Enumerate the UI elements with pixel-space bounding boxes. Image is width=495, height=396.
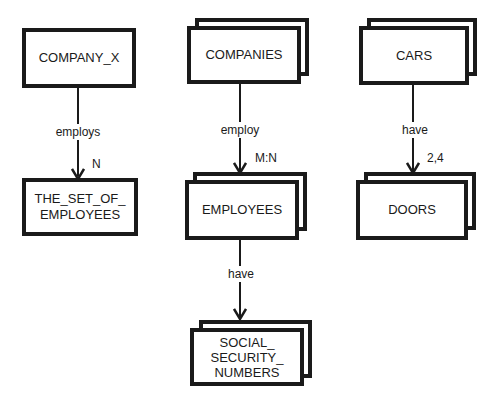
entity-label: THE_SET_OF_ EMPLOYEES (34, 191, 125, 223)
entity-employees: EMPLOYEES (185, 180, 299, 240)
relationship-label-employs: employs (52, 124, 104, 140)
entity-label: SOCIAL_ SECURITY_ NUMBERS (211, 335, 284, 380)
entity-label: CARS (396, 48, 432, 64)
relationship-label-have: have (226, 266, 256, 282)
entity-label: COMPANY_X (39, 50, 120, 66)
cardinality-label: N (92, 157, 101, 171)
relationship-label-employ: employ (220, 122, 260, 138)
relationship-label-have-cars: have (400, 122, 430, 138)
cardinality-label: 2,4 (427, 151, 444, 165)
entity-label: EMPLOYEES (202, 202, 282, 218)
entity-companies: COMPANIES (187, 26, 301, 84)
entity-company-x: COMPANY_X (22, 28, 136, 88)
entity-doors: DOORS (356, 180, 468, 240)
entity-the-set-of-employees: THE_SET_OF_ EMPLOYEES (22, 178, 138, 236)
entity-cars: CARS (359, 26, 469, 85)
entity-social-security-numbers: SOCIAL_ SECURITY_ NUMBERS (190, 328, 304, 386)
cardinality-label: M:N (255, 151, 277, 165)
entity-label: DOORS (388, 202, 436, 218)
entity-label: COMPANIES (205, 47, 282, 63)
